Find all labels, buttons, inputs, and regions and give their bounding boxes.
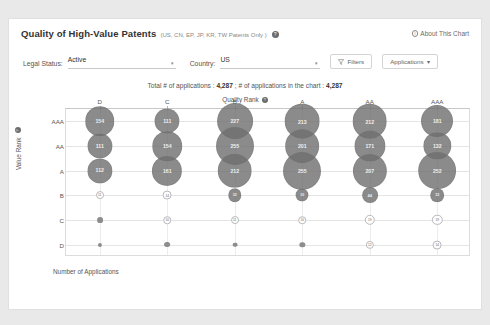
bubble-AAA-D[interactable]: 14 (433, 240, 442, 249)
applications-button[interactable]: Applications ▾ (382, 54, 437, 69)
bubble-AA-C[interactable]: 19 (365, 215, 375, 225)
page-title-subtext: (US, CN, EP, JP, KR, TW Patents Only ) (160, 32, 266, 38)
y-axis-tick-AAA: AAA (50, 118, 64, 125)
x-bottom-axis-label: Number of Applications (53, 268, 119, 275)
total-applications-value: 4,287 (216, 82, 233, 89)
bubble-D-C[interactable] (97, 217, 103, 223)
y-axis-title-label: Value Rank (15, 137, 22, 170)
x-axis-title-label: Quality Rank (222, 96, 259, 103)
chart-applications-value: 4,287 (326, 82, 343, 89)
filters-button[interactable]: Filters (330, 54, 372, 69)
bubble-D-B[interactable]: 11 (96, 191, 104, 199)
y-axis-tick-D: D (50, 241, 64, 248)
y-axis-tick-C: C (50, 217, 64, 224)
bubble-C-C[interactable]: 10 (163, 216, 171, 224)
bubble-D-A[interactable]: 112 (87, 158, 112, 183)
chart-card: Quality of High-Value Patents (US, CN, E… (8, 18, 482, 310)
bubble-AA-B[interactable]: 44 (362, 187, 378, 203)
chevron-down-icon: ▾ (315, 60, 318, 66)
x-axis-tick-D: D (98, 98, 102, 105)
y-axis-tick-AA: AA (50, 143, 64, 150)
filters-button-label: Filters (347, 58, 364, 65)
chart-applications-prefix: ; # of applications in the chart : (235, 82, 324, 89)
total-applications-prefix: Total # of applications : (147, 82, 214, 89)
card-header: Quality of High-Value Patents (US, CN, E… (9, 19, 481, 69)
bubble-C-B[interactable]: 14 (163, 191, 172, 200)
legal-status-label: Legal Status: (23, 60, 63, 69)
bubble-AA-A[interactable]: 207 (353, 154, 387, 188)
bubble-B-C[interactable]: 11 (231, 216, 239, 224)
chevron-down-icon: ▾ (171, 60, 174, 66)
info-icon: i (412, 30, 419, 37)
about-this-chart-label: About This Chart (420, 30, 469, 37)
bubble-C-A[interactable]: 161 (152, 156, 182, 186)
plot-area: AAAAAABCDDCBAAAAAA1541112272132121811111… (65, 108, 470, 256)
filter-bar: Legal Status: Active ▾ Country: US ▾ Fil… (21, 48, 469, 69)
bubble-A-A[interactable]: 255 (283, 152, 321, 190)
x-axis-help-icon[interactable]: ? (262, 97, 268, 103)
bubble-AAA-A[interactable]: 252 (418, 152, 456, 190)
x-axis-title: Quality Rank? (9, 96, 481, 104)
country-value: US (220, 56, 229, 63)
legal-status-value: Active (68, 56, 87, 63)
country-label: Country: (190, 60, 216, 69)
legal-status-select[interactable]: Active ▾ (68, 48, 176, 69)
about-this-chart-link[interactable]: i About This Chart (412, 30, 469, 37)
title-help-icon[interactable]: ? (272, 31, 279, 38)
bubble-A-B[interactable]: 30 (296, 189, 309, 202)
gridline-horizontal (66, 245, 469, 246)
bubble-A-D[interactable] (300, 242, 305, 247)
chevron-down-icon: ▾ (427, 58, 430, 65)
applications-button-label: Applications (390, 58, 423, 65)
gridline-horizontal (66, 171, 469, 172)
y-axis-tick-A: A (50, 167, 64, 174)
bubble-B-B[interactable]: 32 (228, 189, 241, 202)
page-title: Quality of High-Value Patents (21, 28, 156, 39)
bubble-D-AAA[interactable]: 154 (85, 107, 115, 137)
bubble-B-D[interactable] (232, 242, 237, 247)
x-axis-tick-AAA: AAA (431, 98, 443, 105)
bubble-AAA-C[interactable]: 19 (432, 215, 442, 225)
bubble-D-D[interactable] (98, 243, 102, 247)
bubble-chart: Quality Rank? Value Rank? AAAAAABCDDCBAA… (9, 96, 481, 281)
bubble-B-A[interactable]: 212 (217, 153, 252, 188)
gridline-horizontal (66, 220, 469, 221)
bubble-D-AA[interactable]: 111 (87, 133, 112, 158)
application-count-summary: Total # of applications : 4,287 ; # of a… (9, 82, 481, 89)
bubble-AAA-B[interactable]: 33 (430, 189, 444, 203)
country-field: Country: US ▾ (190, 48, 321, 69)
funnel-icon (338, 59, 344, 65)
title-row: Quality of High-Value Patents (US, CN, E… (21, 28, 469, 39)
gridline-horizontal (66, 121, 469, 122)
y-axis-title: Value Rank? (15, 127, 22, 170)
y-axis-tick-B: B (50, 192, 64, 199)
legal-status-field: Legal Status: Active ▾ (23, 48, 176, 69)
y-axis-help-icon[interactable]: ? (15, 127, 21, 133)
gridline-horizontal (66, 195, 469, 196)
x-axis-tick-C: C (165, 98, 169, 105)
country-select[interactable]: US ▾ (220, 48, 320, 69)
bubble-C-D[interactable] (164, 242, 170, 248)
bubble-A-C[interactable]: 10 (298, 216, 306, 224)
bubble-AA-D[interactable]: 12 (366, 241, 374, 249)
gridline-horizontal (66, 146, 469, 147)
bubble-C-AAA[interactable]: 111 (155, 109, 180, 134)
